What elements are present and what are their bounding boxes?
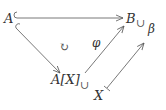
ax-hook-symbol: ∪	[80, 80, 89, 91]
b-hook-symbol: ∪	[136, 18, 145, 29]
node-beta: β	[148, 23, 155, 36]
commutes-icon: ↻	[59, 42, 69, 53]
node-b: B	[126, 12, 136, 25]
node-a: A	[4, 12, 13, 25]
node-x: X	[94, 89, 103, 102]
edge-ax-to-b	[85, 26, 124, 73]
edge-a-to-b	[14, 12, 123, 18]
label-phi: φ	[92, 37, 100, 50]
node-ax: A[X]	[51, 73, 80, 86]
edge-a-to-ax	[16, 24, 60, 73]
edge-x-mapsto-beta	[104, 43, 144, 91]
